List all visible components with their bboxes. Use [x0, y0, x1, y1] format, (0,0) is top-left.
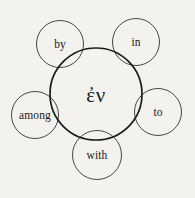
satellite-circle-group [12, 19, 182, 180]
diagram-svg [0, 0, 195, 198]
satellite-circle-in[interactable] [113, 19, 160, 66]
satellite-circle-among[interactable] [12, 92, 59, 139]
center-circle-en[interactable] [50, 48, 142, 140]
venn-diagram-canvas: ἐν by in among to with [0, 0, 195, 198]
satellite-circle-by[interactable] [37, 21, 84, 68]
